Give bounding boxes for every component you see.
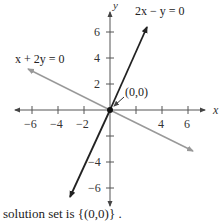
tick-y-m4: −4 [88,155,101,169]
origin-point [107,107,113,113]
graph: −6 −4 −2 4 6 6 4 2 −4 −6 x y 2x − y = 0 … [0,0,222,222]
tick-x-4: 4 [158,117,164,131]
solution-caption: solution set is {(0,0)} . [3,206,122,222]
tick-y-6: 6 [94,25,100,39]
x-axis-label: x [212,103,219,117]
tick-x-6: 6 [184,117,190,131]
line2-label: x + 2y = 0 [15,52,65,66]
origin-label: (0,0) [125,85,148,99]
y-axis-label: y [112,0,118,11]
tick-y-2: 2 [94,77,100,91]
tick-x-m4: −4 [50,117,63,131]
tick-x-m6: −6 [24,117,37,131]
tick-y-4: 4 [94,51,100,65]
line1-label: 2x − y = 0 [135,4,185,18]
tick-y-m6: −6 [88,181,101,195]
tick-x-m2: −2 [76,117,89,131]
